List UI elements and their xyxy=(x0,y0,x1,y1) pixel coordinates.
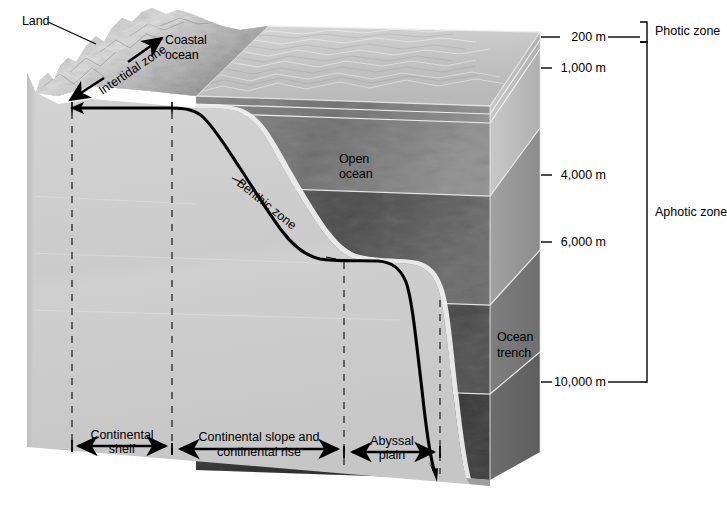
depth-label-200m: 200 m xyxy=(548,30,606,44)
open-ocean-label-line2: ocean xyxy=(339,167,373,181)
photic-zone-label: Photic zone xyxy=(655,24,720,38)
aphotic-zone-label: Aphotic zone xyxy=(655,205,727,219)
ocean-trench-label-line1: Ocean xyxy=(497,330,533,344)
ocean-right-side-faces xyxy=(490,32,540,480)
land-leader-line xyxy=(48,22,96,44)
abyssal-plain-label-line1: Abyssal xyxy=(347,434,437,449)
land-label: Land xyxy=(22,14,49,28)
abyssal-plain-label-line2: plain xyxy=(347,448,437,463)
depth-label-4000m: 4,000 m xyxy=(540,168,606,182)
coastal-ocean-label-line2: ocean xyxy=(165,48,199,62)
continental-slope-rise-label-line1: Continental slope and xyxy=(178,430,340,445)
depth-scale xyxy=(541,37,560,382)
continental-shelf-label-line1: Continental xyxy=(72,428,172,443)
continental-shelf-label-line2: shelf xyxy=(72,442,172,457)
depth-label-6000m: 6,000 m xyxy=(540,235,606,249)
light-zone-brackets xyxy=(608,22,647,382)
depth-tick-marks xyxy=(541,37,560,382)
coastal-ocean-label-line1: Coastal xyxy=(165,33,207,47)
continental-slope-rise-label-line2: continental rise xyxy=(178,445,340,460)
ocean-trench-label-line2: trench xyxy=(497,346,531,360)
open-ocean-label-line1: Open xyxy=(339,152,369,166)
depth-label-1000m: 1,000 m xyxy=(540,61,606,75)
depth-label-10000m: 10,000 m xyxy=(534,375,606,389)
